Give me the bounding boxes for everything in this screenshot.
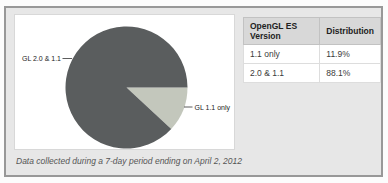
pie-chart: GL 2.0 & 1.1 GL 1.1 only [15, 15, 234, 149]
pie-slice-label-gl-2-0: GL 2.0 & 1.1 [22, 55, 61, 62]
column-header-opengl-es-version: OpenGL ES Version [244, 18, 320, 45]
dashboard-panel: GL 2.0 & 1.1 GL 1.1 only OpenGL ES Versi… [4, 6, 383, 177]
cell-version: 1.1 only [244, 45, 320, 64]
cell-version: 2.0 & 1.1 [244, 64, 320, 83]
table-row: 2.0 & 1.1 88.1% [244, 64, 381, 83]
table-row: 1.1 only 11.9% [244, 45, 381, 64]
pie-slice-label-gl-1-1: GL 1.1 only [195, 104, 231, 112]
cell-distribution: 88.1% [320, 64, 381, 83]
data-collection-caption: Data collected during a 7-day period end… [16, 156, 242, 166]
pie-chart-panel: GL 2.0 & 1.1 GL 1.1 only [14, 14, 235, 150]
column-header-distribution: Distribution [320, 18, 381, 45]
cell-distribution: 11.9% [320, 45, 381, 64]
table-header-row: OpenGL ES Version Distribution [244, 18, 381, 45]
distribution-table: OpenGL ES Version Distribution 1.1 only … [243, 17, 381, 83]
